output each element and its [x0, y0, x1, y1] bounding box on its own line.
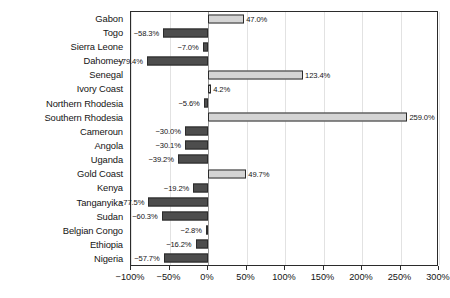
bar [206, 225, 208, 234]
x-axis-tick-mark [130, 266, 131, 270]
x-axis-tick-mark [323, 266, 324, 270]
bar-row: 49.7% [131, 167, 437, 180]
bar-row: −57.7% [131, 251, 437, 264]
y-axis-label: Gold Coast [77, 168, 123, 179]
bar-value-label: 49.7% [248, 169, 269, 178]
x-axis-tick-mark [246, 266, 247, 270]
bar-row: −7.0% [131, 40, 437, 53]
x-axis-tick-label: 50% [236, 272, 254, 283]
bar [163, 29, 208, 38]
bar-row: −5.6% [131, 97, 437, 110]
bar [162, 211, 208, 220]
bar-row: −16.2% [131, 237, 437, 250]
x-axis-tick-mark [361, 266, 362, 270]
y-axis-label: Togo [103, 27, 123, 38]
y-axis-label: Southern Rhodesia [44, 112, 123, 123]
x-axis: −100%−50%0%50%100%150%200%250%300% [130, 266, 438, 296]
x-axis-tick-mark [207, 266, 208, 270]
bar-row: 259.0% [131, 111, 437, 124]
y-axis-category-labels: GabonTogoSierra LeoneDahomeySenegalIvory… [0, 11, 128, 266]
y-axis-label: Gabon [95, 13, 123, 24]
bar [208, 85, 211, 94]
bar-row: −30.1% [131, 139, 437, 152]
y-axis-label: Cameroun [80, 126, 123, 137]
y-axis-label: Angola [94, 140, 123, 151]
x-axis-tick-label: −50% [157, 272, 181, 283]
y-axis-label: Northern Rhodesia [46, 98, 123, 109]
bar [147, 57, 208, 66]
y-axis-label: Uganda [91, 154, 123, 165]
bar-row: 4.2% [131, 83, 437, 96]
y-axis-label: Belgian Congo [63, 225, 123, 236]
bar-value-label: 123.4% [305, 71, 330, 80]
bar-row: −39.2% [131, 153, 437, 166]
bar-row: −2.8% [131, 223, 437, 236]
bar-row: 123.4% [131, 69, 437, 82]
bar-value-label: 259.0% [409, 113, 434, 122]
bar [208, 169, 246, 178]
bar-value-label: −5.6% [178, 99, 199, 108]
bar [208, 15, 244, 24]
y-axis-label: Senegal [89, 69, 123, 80]
x-axis-tick-label: 100% [272, 272, 296, 283]
x-axis-tick-label: 250% [388, 272, 412, 283]
bar [185, 127, 208, 136]
plot-area: 47.0%−58.3%−7.0%−79.4%123.4%4.2%−5.6%259… [130, 11, 438, 266]
x-axis-tick-label: 200% [349, 272, 373, 283]
bar [204, 99, 208, 108]
x-axis-tick-label: −100% [116, 272, 145, 283]
bar [178, 155, 208, 164]
bar-value-label: −58.3% [134, 29, 159, 38]
bar-row: −30.0% [131, 125, 437, 138]
y-axis-label: Ethiopia [90, 239, 123, 250]
bar-value-label: −19.2% [164, 183, 189, 192]
bar-value-label: −79.4% [118, 57, 143, 66]
bar-value-label: −7.0% [177, 43, 198, 52]
bar-value-label: −57.7% [134, 253, 159, 262]
y-axis-label: Ivory Coast [77, 83, 123, 94]
bar-value-label: −60.3% [132, 211, 157, 220]
bar [196, 239, 208, 248]
bar-value-label: −30.1% [155, 141, 180, 150]
bar-row: −77.5% [131, 195, 437, 208]
bar-row: −19.2% [131, 181, 437, 194]
bar [148, 197, 208, 206]
x-axis-tick-label: 0% [200, 272, 213, 283]
bar [208, 113, 407, 122]
bar [164, 253, 208, 262]
bar-row: −60.3% [131, 209, 437, 222]
y-axis-label: Tanganyika [77, 197, 123, 208]
bar [193, 183, 208, 192]
y-axis-label: Sierra Leone [71, 41, 123, 52]
bar [185, 141, 208, 150]
x-axis-tick-label: 300% [426, 272, 450, 283]
bar-row: −79.4% [131, 54, 437, 67]
x-axis-tick-label: 150% [311, 272, 335, 283]
y-axis-label: Kenya [97, 182, 123, 193]
bar [203, 43, 208, 52]
bar-value-label: −16.2% [166, 239, 191, 248]
gridline [439, 12, 440, 265]
x-axis-tick-mark [284, 266, 285, 270]
bars-layer: 47.0%−58.3%−7.0%−79.4%123.4%4.2%−5.6%259… [131, 12, 437, 265]
bar-value-label: −2.8% [181, 225, 202, 234]
y-axis-label: Nigeria [94, 253, 123, 264]
bar-value-label: 4.2% [213, 85, 230, 94]
bar-value-label: −30.0% [156, 127, 181, 136]
x-axis-tick-mark [169, 266, 170, 270]
bar-value-label: −39.2% [148, 155, 173, 164]
bar-value-label: 47.0% [246, 15, 267, 24]
bar-row: −58.3% [131, 26, 437, 39]
x-axis-tick-mark [400, 266, 401, 270]
bar-row: 47.0% [131, 12, 437, 25]
y-axis-label: Sudan [96, 211, 123, 222]
bar-value-label: −77.5% [119, 197, 144, 206]
bar [208, 71, 303, 80]
x-axis-tick-mark [438, 266, 439, 270]
